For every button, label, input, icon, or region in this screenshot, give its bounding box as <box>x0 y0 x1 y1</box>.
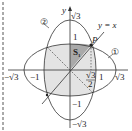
tick-x-1: 1 <box>99 72 104 82</box>
curve-1-label: ① <box>111 47 119 57</box>
tick-x-sqrt3: √3 <box>115 72 125 82</box>
y-axis-label: y <box>61 5 66 15</box>
tick-y-neg-1: −1 <box>72 99 82 109</box>
curve-2-label: ② <box>40 17 48 27</box>
line-label: y = x <box>97 20 117 30</box>
point-p-label: P <box>91 35 98 45</box>
tick-y-1: 1 <box>73 32 78 42</box>
tick-x-neg-sqrt3: −√3 <box>4 72 19 82</box>
tick-x-neg-1: −1 <box>30 72 40 82</box>
tick-y-neg-sqrt3: −√3 <box>72 119 87 129</box>
ellipse-diagram: ② ① y √3 y = x 1 P S1 −√3 −1 √3 2 1 √3 −… <box>0 0 132 131</box>
tick-y-sqrt3: √3 <box>71 11 81 21</box>
tick-sqrt3-over-2-den: 2 <box>88 79 93 89</box>
point-q <box>46 94 48 96</box>
